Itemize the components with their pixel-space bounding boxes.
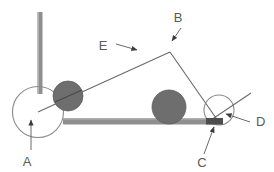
ground-bar-highlight bbox=[63, 118, 223, 120]
vertical-post-highlight bbox=[38, 12, 39, 94]
label-a: A bbox=[23, 154, 32, 169]
label-e-leader bbox=[116, 44, 137, 50]
label-c: C bbox=[197, 155, 206, 170]
label-c-leader bbox=[204, 127, 214, 154]
label-b-leader bbox=[172, 28, 181, 41]
middle-roller-disc bbox=[152, 90, 186, 124]
right-wheel-contact-patch bbox=[206, 118, 223, 125]
label-e: E bbox=[99, 38, 108, 53]
label-b: B bbox=[174, 10, 183, 25]
diagram-canvas: A B C D E bbox=[0, 0, 274, 172]
mechanism-diagram-svg: A B C D E bbox=[0, 0, 274, 172]
label-d: D bbox=[256, 114, 265, 129]
